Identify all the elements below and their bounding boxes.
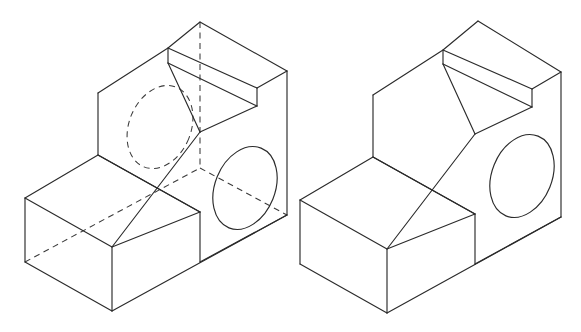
isometric-drawing-canvas [0,0,581,332]
